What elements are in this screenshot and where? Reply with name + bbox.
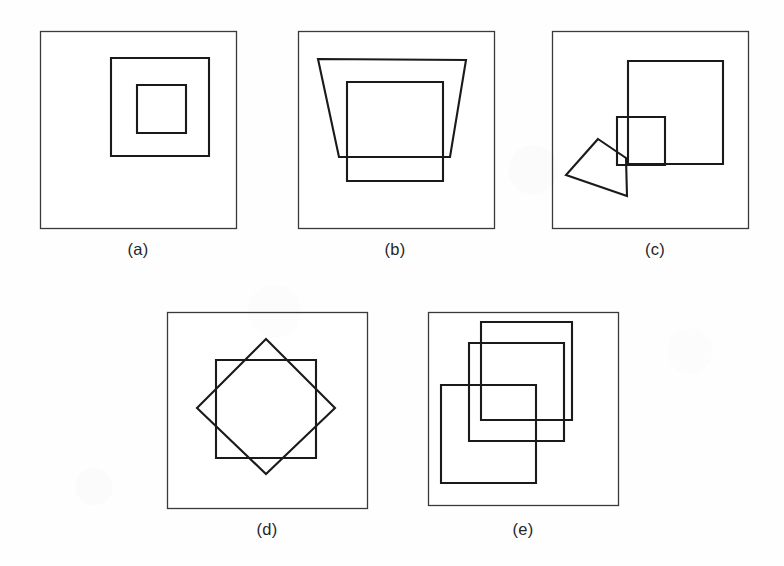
figure-canvas: (a) (b) (c) (d) (e) xyxy=(0,0,784,566)
panel-a-frame xyxy=(41,32,237,229)
panel-e-frame xyxy=(429,313,619,506)
panel-d-caption: (d) xyxy=(237,520,297,539)
panel-e-caption: (e) xyxy=(493,520,553,539)
panel-b-caption: (b) xyxy=(365,240,425,259)
panel-c-caption: (c) xyxy=(625,240,685,259)
panel-a xyxy=(0,0,784,566)
panel-a-caption: (a) xyxy=(108,240,168,259)
panel-a-drawing xyxy=(0,0,784,566)
